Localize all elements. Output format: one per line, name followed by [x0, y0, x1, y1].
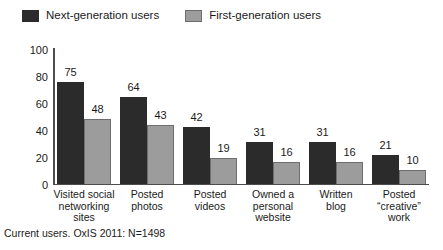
- bar-value-label: 10: [406, 155, 418, 166]
- bar-value-label: 43: [154, 110, 166, 121]
- plot-area: 020406080100 754864434219311631162110: [53, 48, 429, 185]
- bar-wrap: 10: [399, 49, 426, 184]
- bar[interactable]: [84, 119, 111, 184]
- x-axis-category-label: Posted “creative” work: [366, 189, 432, 224]
- bar[interactable]: [246, 142, 273, 184]
- bar-wrap: 19: [210, 49, 237, 184]
- bar-group: 7548: [57, 49, 111, 184]
- y-axis-tick-label: 0: [42, 180, 48, 191]
- bar[interactable]: [372, 155, 399, 183]
- bar-wrap: 64: [120, 49, 147, 184]
- legend-item-next-generation-users: Next-generation users: [22, 10, 159, 22]
- bar-group: 3116: [309, 49, 363, 184]
- bar-value-label: 64: [127, 82, 139, 93]
- bar-wrap: 43: [147, 49, 174, 184]
- bar-wrap: 31: [246, 49, 273, 184]
- y-axis-tick-label: 80: [36, 72, 48, 83]
- bar-value-label: 48: [91, 104, 103, 115]
- bar-value-label: 42: [190, 112, 202, 123]
- legend-label-first-generation-users: First-generation users: [209, 10, 321, 22]
- y-axis-tick-label: 60: [36, 99, 48, 110]
- bar-value-label: 75: [64, 67, 76, 78]
- y-axis-tick-label: 100: [30, 45, 48, 56]
- x-axis-category-label: Written blog: [303, 189, 369, 212]
- y-axis-line: [53, 48, 55, 185]
- bar[interactable]: [210, 158, 237, 184]
- bar-group: 3116: [246, 49, 300, 184]
- bar-value-label: 31: [316, 127, 328, 138]
- bar[interactable]: [336, 162, 363, 184]
- bar[interactable]: [183, 127, 210, 184]
- x-axis-category-label: Posted videos: [177, 189, 243, 212]
- bar-wrap: 31: [309, 49, 336, 184]
- legend-item-first-generation-users: First-generation users: [185, 10, 321, 22]
- bar-value-label: 16: [280, 147, 292, 158]
- bar-value-label: 21: [379, 140, 391, 151]
- bar[interactable]: [57, 82, 84, 183]
- x-axis-category-label: Visited social networking sites: [51, 189, 117, 224]
- bar-group: 4219: [183, 49, 237, 184]
- x-axis-category-label: Posted photos: [114, 189, 180, 212]
- y-axis-tick-label: 20: [36, 153, 48, 164]
- bar-value-label: 19: [217, 143, 229, 154]
- bar[interactable]: [273, 162, 300, 184]
- bar-wrap: 42: [183, 49, 210, 184]
- x-axis-line: [53, 184, 429, 186]
- bar-group: 2110: [372, 49, 426, 184]
- chart-footnote: Current users. OxIS 2011: N=1498: [4, 228, 165, 239]
- bar[interactable]: [147, 125, 174, 183]
- chart-legend: Next-generation users First-generation u…: [22, 10, 321, 22]
- legend-label-next-generation-users: Next-generation users: [46, 10, 159, 22]
- bar[interactable]: [120, 97, 147, 183]
- legend-swatch-icon-first-generation-users: [185, 10, 202, 22]
- bar-wrap: 16: [273, 49, 300, 184]
- chart-container: Next-generation users First-generation u…: [0, 0, 443, 250]
- bar-wrap: 21: [372, 49, 399, 184]
- bar-wrap: 75: [57, 49, 84, 184]
- x-axis-category-label: Owned a personal website: [240, 189, 306, 224]
- legend-swatch-icon-next-generation-users: [22, 10, 39, 22]
- bar-wrap: 16: [336, 49, 363, 184]
- y-axis-tick-label: 40: [36, 126, 48, 137]
- bar[interactable]: [399, 170, 426, 184]
- bar-group: 6443: [120, 49, 174, 184]
- bar-value-label: 31: [253, 127, 265, 138]
- bar-wrap: 48: [84, 49, 111, 184]
- bar-value-label: 16: [343, 147, 355, 158]
- bar[interactable]: [309, 142, 336, 184]
